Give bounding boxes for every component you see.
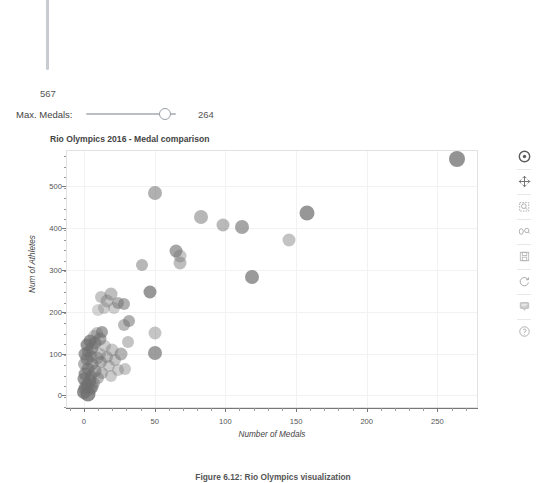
- x-minor-tick: [466, 408, 467, 411]
- y-minor-tick: [64, 219, 67, 220]
- scatter-point[interactable]: [449, 151, 465, 167]
- help-icon[interactable]: [514, 321, 534, 341]
- plot-frame[interactable]: [66, 150, 478, 408]
- slider-handle[interactable]: [159, 108, 171, 120]
- gridline-horizontal: [67, 186, 477, 187]
- x-minor-tick: [268, 408, 269, 411]
- gridline-vertical: [437, 151, 438, 407]
- scatter-point[interactable]: [88, 330, 100, 342]
- x-minor-tick: [112, 408, 113, 411]
- scatter-point[interactable]: [282, 233, 295, 246]
- x-minor-tick: [239, 408, 240, 411]
- y-minor-tick: [64, 188, 67, 189]
- vertical-slider-value: 567: [40, 88, 56, 99]
- x-minor-tick: [409, 408, 410, 411]
- y-minor-tick: [64, 355, 67, 356]
- y-axis: 0100200300400500: [34, 150, 66, 408]
- toolbar-divider: [517, 319, 531, 320]
- scatter-point[interactable]: [148, 346, 162, 360]
- y-minor-tick: [64, 292, 67, 293]
- x-minor-tick: [282, 408, 283, 411]
- scatter-point[interactable]: [245, 270, 259, 284]
- gridline-horizontal: [67, 354, 477, 355]
- gridline-horizontal: [67, 312, 477, 313]
- x-minor-tick: [126, 408, 127, 411]
- hover-icon[interactable]: [514, 296, 534, 316]
- scatter-point[interactable]: [105, 370, 117, 382]
- x-minor-tick: [338, 408, 339, 411]
- y-minor-tick: [64, 344, 67, 345]
- scatter-point[interactable]: [174, 256, 187, 269]
- toolbar-divider: [517, 294, 531, 295]
- y-minor-tick: [64, 167, 67, 168]
- scatter-point[interactable]: [92, 304, 104, 316]
- reset-icon[interactable]: [514, 271, 534, 291]
- scatter-point[interactable]: [194, 210, 208, 224]
- x-minor-tick: [183, 408, 184, 411]
- y-minor-tick: [64, 334, 67, 335]
- x-tick-mark: [296, 408, 297, 412]
- save-icon[interactable]: [514, 246, 534, 266]
- max-athletes-slider[interactable]: [38, 0, 58, 80]
- figure-caption: Figure 6.12: Rio Olympics visualization: [0, 472, 546, 483]
- y-tick-label: 400: [36, 224, 62, 233]
- scatter-point[interactable]: [108, 302, 120, 314]
- box-zoom-icon[interactable]: [514, 196, 534, 216]
- x-minor-tick: [169, 408, 170, 411]
- x-minor-tick: [98, 408, 99, 411]
- scatter-point[interactable]: [144, 285, 157, 298]
- x-minor-tick: [452, 408, 453, 411]
- scatter-point[interactable]: [122, 336, 134, 348]
- gridline-vertical: [296, 151, 297, 407]
- x-tick-mark: [155, 408, 156, 412]
- y-minor-tick: [64, 323, 67, 324]
- y-minor-tick: [64, 303, 67, 304]
- vertical-slider-track[interactable]: [46, 0, 49, 70]
- x-axis-line: [66, 408, 478, 409]
- scatter-point[interactable]: [235, 220, 249, 234]
- plot-title: Rio Olympics 2016 - Medal comparison: [50, 134, 210, 144]
- scatter-point[interactable]: [148, 326, 161, 339]
- scatter-point[interactable]: [148, 186, 162, 200]
- scatter-point[interactable]: [216, 218, 229, 231]
- x-minor-tick: [381, 408, 382, 411]
- y-tick-label: 200: [36, 307, 62, 316]
- wheel-zoom-icon[interactable]: [514, 221, 534, 241]
- x-tick-mark: [84, 408, 85, 412]
- scatter-point[interactable]: [99, 340, 111, 352]
- y-minor-tick: [64, 198, 67, 199]
- x-minor-tick: [324, 408, 325, 411]
- x-minor-tick: [423, 408, 424, 411]
- y-minor-tick: [64, 271, 67, 272]
- y-minor-tick: [64, 177, 67, 178]
- x-minor-tick: [141, 408, 142, 411]
- scatter-point[interactable]: [86, 380, 99, 393]
- y-minor-tick: [64, 282, 67, 283]
- pan-icon[interactable]: [514, 171, 534, 191]
- x-tick-label: 250: [431, 417, 444, 426]
- max-medals-value: 264: [198, 109, 214, 120]
- x-axis-label: Number of Medals: [66, 430, 478, 439]
- x-tick-label: 50: [150, 417, 158, 426]
- y-minor-tick: [64, 313, 67, 314]
- y-minor-tick: [64, 209, 67, 210]
- toolbar-divider: [517, 219, 531, 220]
- bokeh-logo-icon: [514, 146, 534, 166]
- y-tick-label: 0: [36, 391, 62, 400]
- scatter-point[interactable]: [136, 259, 148, 271]
- gridline-horizontal: [67, 228, 477, 229]
- max-medals-slider[interactable]: [86, 106, 176, 122]
- y-minor-tick: [64, 397, 67, 398]
- y-tick-label: 500: [36, 182, 62, 191]
- scatter-point[interactable]: [300, 205, 315, 220]
- gridline-horizontal: [67, 395, 477, 396]
- x-tick-label: 200: [360, 417, 373, 426]
- x-tick-mark: [437, 408, 438, 412]
- scatter-point[interactable]: [118, 319, 130, 331]
- x-minor-tick: [211, 408, 212, 411]
- gridline-vertical: [367, 151, 368, 407]
- y-tick-label: 100: [36, 349, 62, 358]
- toolbar-divider: [517, 244, 531, 245]
- x-minor-tick: [70, 408, 71, 411]
- toolbar-divider: [517, 194, 531, 195]
